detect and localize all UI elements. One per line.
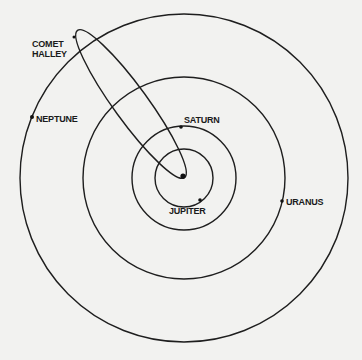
sun-marker xyxy=(180,173,185,178)
neptune-marker xyxy=(30,115,34,119)
uranus-marker xyxy=(280,199,284,203)
comet-label-line2: HALLEY xyxy=(32,49,67,59)
neptune-label: NEPTUNE xyxy=(36,114,78,124)
uranus-label: URANUS xyxy=(286,197,323,207)
saturn-label: SATURN xyxy=(184,115,220,125)
saturn-marker xyxy=(179,125,183,129)
comet-label-line1: COMET xyxy=(32,39,67,49)
comet-halley-label: COMET HALLEY xyxy=(32,39,67,59)
jupiter-marker xyxy=(198,198,202,202)
comet-halley-marker xyxy=(73,36,76,39)
jupiter-label: JUPITER xyxy=(169,206,206,216)
